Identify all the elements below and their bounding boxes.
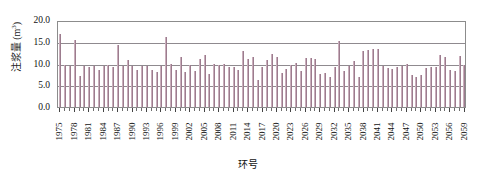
bar <box>223 64 225 107</box>
x-tick <box>343 108 344 111</box>
bar <box>338 41 340 107</box>
x-tick-label: 2044 <box>386 115 397 149</box>
bar <box>430 67 432 107</box>
x-tick-label: 1984 <box>97 115 108 149</box>
bar <box>107 65 109 107</box>
bar <box>204 55 206 107</box>
x-tick <box>194 108 195 111</box>
bar <box>276 57 278 107</box>
bar <box>112 67 114 107</box>
x-tick-label: 1996 <box>155 115 166 149</box>
x-tick <box>411 108 412 111</box>
bar <box>463 65 465 107</box>
bar <box>127 60 129 107</box>
x-tick <box>314 108 315 111</box>
x-tick <box>401 108 402 111</box>
x-tick <box>382 108 383 111</box>
x-tick-label: 2023 <box>285 115 296 149</box>
bar <box>83 66 85 107</box>
bar <box>184 72 186 107</box>
x-tick <box>353 108 354 111</box>
x-axis-title: 环号 <box>0 156 495 171</box>
bar <box>290 65 292 107</box>
x-tick <box>69 108 70 111</box>
bar <box>382 66 384 107</box>
x-tick <box>387 108 388 111</box>
bar <box>156 72 158 107</box>
x-tick-label: 2008 <box>213 115 224 149</box>
bar <box>93 66 95 107</box>
bar <box>324 73 326 107</box>
bar <box>454 71 456 107</box>
x-tick <box>209 108 210 111</box>
bar <box>98 70 100 107</box>
bar <box>266 60 268 107</box>
bar <box>314 59 316 107</box>
bar <box>444 57 446 107</box>
x-tick <box>459 108 460 111</box>
bar <box>64 65 66 107</box>
x-tick <box>286 108 287 111</box>
x-tick <box>122 108 123 111</box>
x-tick-label: 1987 <box>112 115 123 149</box>
x-tick <box>372 108 373 111</box>
x-tick <box>170 108 171 111</box>
bar <box>406 64 408 107</box>
x-tick <box>396 108 397 111</box>
bar <box>319 74 321 107</box>
bar <box>439 55 441 107</box>
y-axis-tick-labels: 20.015.010.05.00.0 <box>16 0 50 176</box>
bar <box>391 69 393 107</box>
bar <box>122 66 124 107</box>
bar <box>377 49 379 107</box>
bar <box>348 66 350 107</box>
bar <box>103 66 105 107</box>
bar <box>160 66 162 107</box>
x-tick <box>185 108 186 111</box>
x-tick <box>93 108 94 111</box>
bar <box>358 77 360 107</box>
bar <box>310 58 312 107</box>
x-axis-tick-labels: 1975197819811984198719901993199619992002… <box>57 112 466 146</box>
bar <box>151 70 153 107</box>
x-tick <box>213 108 214 111</box>
bar <box>329 77 331 107</box>
bar <box>131 66 133 107</box>
y-tick-label: 5.0 <box>20 81 50 90</box>
bar <box>199 59 201 107</box>
bar <box>411 75 413 107</box>
bar <box>69 66 71 107</box>
x-tick-label: 2038 <box>357 115 368 149</box>
x-tick <box>367 108 368 111</box>
bar <box>247 59 249 107</box>
bar <box>180 57 182 107</box>
x-tick-label: 1990 <box>126 115 137 149</box>
x-tick <box>64 108 65 111</box>
bar <box>141 66 143 107</box>
x-tick-label: 2020 <box>270 115 281 149</box>
bar <box>213 64 215 107</box>
bar <box>242 51 244 107</box>
bar <box>228 67 230 107</box>
x-tick <box>329 108 330 111</box>
y-tick-label: 10.0 <box>20 60 50 69</box>
y-tick-label: 0.0 <box>20 103 50 112</box>
x-tick-label: 2050 <box>415 115 426 149</box>
bar <box>88 67 90 107</box>
x-tick <box>430 108 431 111</box>
x-tick <box>295 108 296 111</box>
bar <box>189 65 191 107</box>
x-tick <box>425 108 426 111</box>
x-tick <box>444 108 445 111</box>
bar <box>74 40 76 107</box>
bar <box>136 70 138 107</box>
bar <box>387 68 389 107</box>
bar <box>233 67 235 107</box>
x-tick <box>300 108 301 111</box>
bar <box>218 65 220 107</box>
x-tick <box>237 108 238 111</box>
x-tick <box>454 108 455 111</box>
x-tick-label: 1993 <box>141 115 152 149</box>
bar <box>415 77 417 107</box>
x-tick-label: 2005 <box>198 115 209 149</box>
